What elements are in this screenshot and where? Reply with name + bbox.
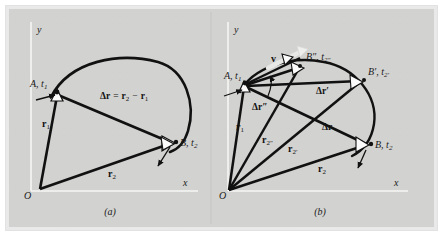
panel-a-label-origin: O xyxy=(24,190,31,201)
panel-b-point-Bp-dot xyxy=(362,78,366,82)
panel-b-point-Bpp-dot xyxy=(298,64,302,68)
panel-a-point-A-dot xyxy=(55,90,60,95)
panel-b-point-A-dot xyxy=(243,81,248,86)
panel-b-point-B-dot xyxy=(369,142,373,146)
panel-b-caption: (b) xyxy=(314,206,326,218)
physics-diagram: A, t1 B, t2 r1 r2 Δr=r2−r1 O x y (a) xyxy=(0,0,443,236)
panel-a-label-x-axis: x xyxy=(182,177,188,188)
panel-a-label-y-axis: y xyxy=(36,24,42,35)
panel-b-label-origin: O xyxy=(219,190,226,201)
panel-b-label-delta-r: Δr xyxy=(322,122,333,132)
panel-b-label-delta-rp: Δr′ xyxy=(316,86,329,96)
panel-b-label-x-axis: x xyxy=(393,177,399,188)
figure-container: A, t1 B, t2 r1 r2 Δr=r2−r1 O x y (a) xyxy=(0,0,443,236)
panel-b-label-v: v xyxy=(271,53,276,64)
panel-b-label-y-axis: y xyxy=(233,24,239,35)
panel-a-caption: (a) xyxy=(104,206,116,218)
panel-b-label-delta-rpp: Δr″ xyxy=(252,102,267,112)
panel-a-point-B-dot xyxy=(174,140,178,144)
